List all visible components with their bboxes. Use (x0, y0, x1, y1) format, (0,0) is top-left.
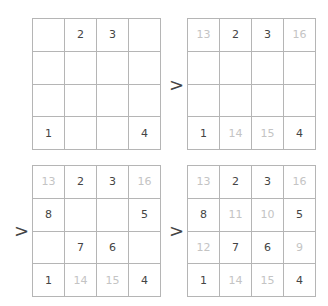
grid-cell (188, 85, 220, 118)
grid-cell: 2 (65, 166, 97, 199)
grid-cell: 3 (252, 19, 284, 52)
grid-cell: 13 (33, 166, 65, 199)
grid-cell (65, 199, 97, 232)
grid-cell: 14 (65, 264, 97, 297)
grid-cell (129, 232, 161, 265)
grid-cell (97, 199, 129, 232)
grid-step-2: 132316114154 (187, 18, 316, 150)
grid-cell: 16 (284, 166, 316, 199)
grid-cell: 7 (65, 232, 97, 265)
grid-cell: 1 (188, 117, 220, 150)
grid-cell: 16 (284, 19, 316, 52)
grid-cell (252, 85, 284, 118)
grid-cell: 2 (220, 19, 252, 52)
grid-cell (65, 85, 97, 118)
grid-cell: 14 (220, 264, 252, 297)
grid-cell: 2 (220, 166, 252, 199)
grid-cell: 3 (97, 166, 129, 199)
grid-cell: 15 (252, 264, 284, 297)
grid-cell: 11 (220, 199, 252, 232)
grid-cell (33, 85, 65, 118)
grid-cell: 16 (129, 166, 161, 199)
grid-cell: 7 (220, 232, 252, 265)
grid-cell: 8 (33, 199, 65, 232)
grid-cell (188, 52, 220, 85)
grid-cell: 14 (220, 117, 252, 150)
grid-cell: 5 (284, 199, 316, 232)
grid-cell: 5 (129, 199, 161, 232)
grid-step-1: 2314 (32, 18, 161, 150)
grid-cell (33, 232, 65, 265)
grid-cell (220, 52, 252, 85)
grid-cell (129, 52, 161, 85)
arrow-3-icon: > (169, 222, 184, 240)
grid-cell: 4 (129, 117, 161, 150)
grid-cell (33, 52, 65, 85)
grid-cell: 4 (129, 264, 161, 297)
grid-cell: 1 (188, 264, 220, 297)
grid-cell (252, 52, 284, 85)
grid-cell: 13 (188, 19, 220, 52)
grid-cell: 3 (97, 19, 129, 52)
grid-cell (129, 85, 161, 118)
grid-cell: 1 (33, 117, 65, 150)
arrow-1-icon: > (169, 76, 184, 94)
grid-cell: 12 (188, 232, 220, 265)
grid-cell: 4 (284, 117, 316, 150)
grid-cell (97, 52, 129, 85)
grid-cell: 8 (188, 199, 220, 232)
grid-cell: 3 (252, 166, 284, 199)
grid-cell (284, 85, 316, 118)
grid-cell (97, 117, 129, 150)
grid-step-4: 13231681110512769114154 (187, 165, 316, 297)
arrow-2-icon: > (14, 222, 29, 240)
grid-cell (97, 85, 129, 118)
grid-cell: 13 (188, 166, 220, 199)
grid-cell (65, 117, 97, 150)
grid-cell (129, 19, 161, 52)
grid-cell (220, 85, 252, 118)
grid-cell (33, 19, 65, 52)
grid-cell: 15 (97, 264, 129, 297)
grid-cell: 6 (97, 232, 129, 265)
grid-cell (65, 52, 97, 85)
grid-cell: 1 (33, 264, 65, 297)
grid-cell: 2 (65, 19, 97, 52)
grid-step-3: 1323168576114154 (32, 165, 161, 297)
grid-cell: 4 (284, 264, 316, 297)
grid-cell: 9 (284, 232, 316, 265)
grid-cell: 10 (252, 199, 284, 232)
grid-cell (284, 52, 316, 85)
grid-cell: 6 (252, 232, 284, 265)
grid-cell: 15 (252, 117, 284, 150)
